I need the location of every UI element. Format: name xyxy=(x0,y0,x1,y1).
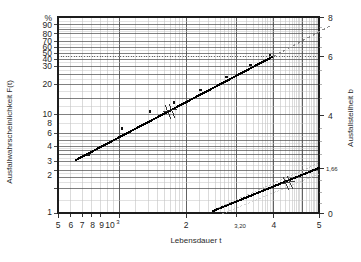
data-point xyxy=(199,89,202,92)
y-tick-label: 6 xyxy=(47,128,52,138)
y-tick-label: 3 xyxy=(47,156,52,166)
canvas-background xyxy=(0,0,361,262)
data-point xyxy=(173,101,176,104)
x-tick-label: 6 xyxy=(69,220,74,230)
data-point xyxy=(149,110,152,113)
y2-tick-label: 0 xyxy=(328,209,333,219)
y2-tick-label-highlight: 1,66 xyxy=(326,166,338,172)
y2-axis-title: Ausfallsteilheit b xyxy=(346,89,355,147)
y-tick-label: 4 xyxy=(47,141,52,151)
data-point xyxy=(121,127,124,130)
y-tick-label: 20 xyxy=(43,79,53,89)
x-tick-label: 8 xyxy=(90,220,95,230)
x-tick-label: 4 xyxy=(271,220,276,230)
y2-tick-label: 4 xyxy=(328,111,333,121)
y-tick-label: 8 xyxy=(47,118,52,128)
weibull-plot-canvas: % 90 80 70 60 50 40 30 20 10 8 6 4 3 2 1… xyxy=(0,0,361,262)
y2-tick-label: 6 xyxy=(328,52,333,62)
data-point xyxy=(249,64,252,67)
x-decade-base: 10 xyxy=(105,220,115,230)
x-tick-label: 9 xyxy=(99,220,104,230)
weibull-plot-figure: % 90 80 70 60 50 40 30 20 10 8 6 4 3 2 1… xyxy=(0,0,361,262)
x-tick-label: 7 xyxy=(80,220,85,230)
data-point xyxy=(269,54,272,57)
x-tick-label: 2 xyxy=(184,220,189,230)
y-tick-label: 30 xyxy=(43,61,53,71)
y-tick-label: 1 xyxy=(47,207,52,217)
x-tick-label: 5 xyxy=(317,220,322,230)
x-tick-label-highlight: 3,20 xyxy=(234,223,246,229)
y-axis-title: Ausfallwahrscheinlichkeit F(t) xyxy=(5,80,14,184)
y2-tick-label: 8 xyxy=(328,13,333,23)
x-axis-title: Lebensdauer t xyxy=(170,236,222,245)
y-tick-label: 2 xyxy=(47,170,52,180)
data-point xyxy=(87,154,90,157)
x-tick-label: 5 xyxy=(56,220,61,230)
data-point xyxy=(225,76,228,79)
